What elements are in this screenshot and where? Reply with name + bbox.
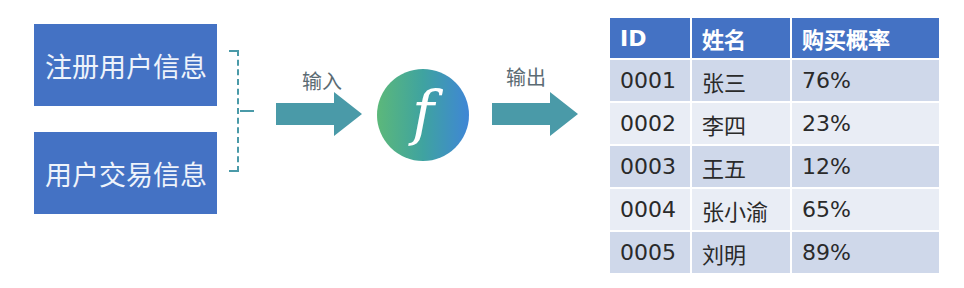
cell-id: 0001: [610, 59, 691, 102]
cell-name: 王五: [691, 145, 791, 188]
cell-name: 张小渝: [691, 188, 791, 231]
input-label: 注册用户信息: [45, 46, 207, 85]
table-row: 0004 张小渝 65%: [610, 188, 940, 231]
input-arrow-icon: [276, 92, 362, 136]
header-probability: 购买概率: [791, 18, 940, 59]
table-row: 0001 张三 76%: [610, 59, 940, 102]
function-symbol: f: [412, 83, 434, 143]
input-label: 用户交易信息: [45, 154, 207, 193]
cell-probability: 12%: [791, 145, 940, 188]
input-box-transaction-info: 用户交易信息: [34, 132, 217, 214]
table-header-row: ID 姓名 购买概率: [610, 18, 940, 59]
table-row: 0003 王五 12%: [610, 145, 940, 188]
table-row: 0002 李四 23%: [610, 102, 940, 145]
table-row: 0005 刘明 89%: [610, 231, 940, 273]
header-name: 姓名: [691, 18, 791, 59]
output-arrow-label: 输出: [506, 62, 546, 91]
cell-probability: 65%: [791, 188, 940, 231]
cell-id: 0003: [610, 145, 691, 188]
cell-name: 刘明: [691, 231, 791, 273]
cell-id: 0004: [610, 188, 691, 231]
header-id: ID: [610, 18, 691, 59]
purchase-probability-table: ID 姓名 购买概率 0001 张三 76% 0002 李四 23% 0003 …: [610, 18, 941, 273]
cell-name: 张三: [691, 59, 791, 102]
cell-probability: 23%: [791, 102, 940, 145]
input-arrow-label: 输入: [302, 66, 342, 95]
output-arrow-icon: [492, 92, 578, 136]
cell-id: 0002: [610, 102, 691, 145]
cell-probability: 76%: [791, 59, 940, 102]
cell-name: 李四: [691, 102, 791, 145]
cell-id: 0005: [610, 231, 691, 273]
merge-bracket-tick: [240, 110, 254, 112]
merge-bracket: [229, 50, 239, 172]
cell-probability: 89%: [791, 231, 940, 273]
input-box-registration-info: 注册用户信息: [34, 24, 217, 106]
function-node: f: [377, 69, 469, 161]
